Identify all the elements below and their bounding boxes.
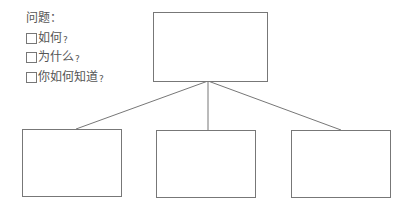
connector-left <box>76 81 208 129</box>
root-box[interactable] <box>153 12 268 82</box>
child-box-left[interactable] <box>22 129 122 197</box>
child-box-right[interactable] <box>291 130 391 198</box>
connector-right <box>208 81 341 130</box>
child-box-middle[interactable] <box>156 130 256 198</box>
